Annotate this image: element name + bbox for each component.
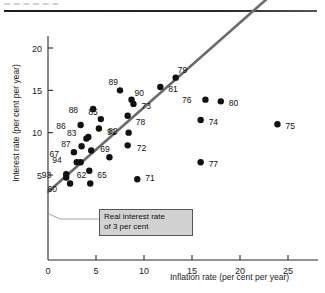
data-point xyxy=(202,96,208,102)
y-tick-label: 15 xyxy=(32,86,42,96)
data-point-label: 89 xyxy=(109,77,119,87)
x-axis-title: Inflation rate (per cent per year) xyxy=(170,272,289,282)
data-point xyxy=(96,125,102,131)
data-point xyxy=(197,117,203,123)
data-point xyxy=(274,121,280,127)
data-point xyxy=(63,174,69,180)
data-point xyxy=(157,84,163,90)
y-tick-label: 10 xyxy=(32,128,42,138)
data-point xyxy=(197,159,203,165)
data-point xyxy=(78,143,84,149)
data-point-label: 81 xyxy=(168,84,178,94)
data-point-label: 77 xyxy=(209,159,219,169)
data-point-label: 76 xyxy=(182,95,192,105)
data-point xyxy=(125,129,131,135)
scatter-plot: 0510152025510152060939462656787836986888… xyxy=(0,0,325,293)
data-point-label: 83 xyxy=(67,128,77,138)
data-point-label: 86 xyxy=(56,121,66,131)
annotation-line-1: Real interest rate xyxy=(104,212,188,222)
data-point xyxy=(117,87,123,93)
data-point-label: 73 xyxy=(141,101,151,111)
figure-container: ▬ ▬ ▬ ▬ ▬ ▬ 0510152025510152060939462656… xyxy=(0,0,325,293)
data-point xyxy=(218,98,224,104)
x-tick-label: 5 xyxy=(93,266,98,276)
annotation-line-2: of 3 per cent xyxy=(104,222,188,232)
data-point-label: 82 xyxy=(108,126,118,136)
data-point xyxy=(124,113,130,119)
data-point xyxy=(71,149,77,155)
data-point-label: 69 xyxy=(100,144,110,154)
data-point-label: 67 xyxy=(49,149,59,159)
y-axis-title: Interest rate (per cent per year) xyxy=(11,63,21,183)
chart-svg: 0510152025510152060939462656787836986888… xyxy=(0,0,325,293)
x-tick-label: 0 xyxy=(45,266,50,276)
data-point-label: 62 xyxy=(77,170,87,180)
x-tick-label: 10 xyxy=(139,266,149,276)
data-point xyxy=(88,147,94,153)
data-point xyxy=(98,116,104,122)
data-point xyxy=(134,176,140,182)
data-point xyxy=(172,74,178,80)
data-point-label: 85 xyxy=(88,107,98,117)
data-point-label: 75 xyxy=(285,121,295,131)
data-point xyxy=(77,122,83,128)
data-point-label: 90 xyxy=(135,88,145,98)
annotation-leader xyxy=(49,214,99,219)
data-point xyxy=(106,154,112,160)
data-point-label: 88 xyxy=(69,105,79,115)
data-point xyxy=(85,134,91,140)
data-point xyxy=(77,159,83,165)
data-point xyxy=(86,168,92,174)
data-point-label: 93 xyxy=(42,170,52,180)
data-point-label: 87 xyxy=(61,139,71,149)
data-point-label: 74 xyxy=(209,117,219,127)
annotation-box: Real interest rate of 3 per cent xyxy=(99,209,193,236)
data-point-label: 72 xyxy=(137,143,147,153)
y-tick-label: 20 xyxy=(32,44,42,54)
data-point-label: 78 xyxy=(136,117,146,127)
data-point-label: 79 xyxy=(178,65,188,75)
data-point-label: 65 xyxy=(97,170,107,180)
data-point-label: 80 xyxy=(229,98,239,108)
data-point xyxy=(124,142,130,148)
data-point xyxy=(87,180,93,186)
data-point-label: 60 xyxy=(48,184,58,194)
data-point-label: 71 xyxy=(145,173,155,183)
data-point xyxy=(67,180,73,186)
